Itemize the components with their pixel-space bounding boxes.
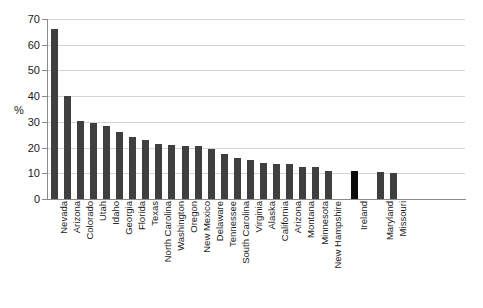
- bar: [390, 173, 397, 199]
- bar: [260, 163, 267, 199]
- bar: [299, 167, 306, 199]
- bar: [195, 146, 202, 199]
- x-axis-tick-label: Colorado: [85, 201, 95, 240]
- y-axis-tick-label: 10: [12, 168, 40, 179]
- x-axis-tick-label: Oregon: [189, 201, 199, 233]
- y-axis-tick-label: 20: [12, 143, 40, 154]
- bar: [312, 167, 319, 199]
- bar: [182, 146, 189, 199]
- y-axis-tick-label: 40: [12, 91, 40, 102]
- x-axis-tick-label: Washington: [176, 201, 186, 251]
- bar: [51, 29, 58, 199]
- bar: [64, 96, 71, 199]
- bar: [142, 140, 149, 199]
- x-axis-tick-label: New Mexico: [202, 201, 212, 253]
- bar: [221, 154, 228, 199]
- bar: [155, 144, 162, 199]
- bar: [90, 123, 97, 199]
- x-axis-tick-label: Utah: [98, 201, 108, 221]
- x-axis-tick-labels: NevadaArizonaColoradoUtahIdahoGeorgiaFlo…: [47, 201, 465, 306]
- y-axis-tick-label: 60: [12, 40, 40, 51]
- bar: [234, 158, 241, 199]
- x-axis-tick-label: Tennessee: [228, 201, 238, 247]
- plot-area: [47, 19, 465, 199]
- bar: [77, 121, 84, 199]
- x-axis-tick-label: Ireland: [359, 201, 369, 230]
- y-axis-tick-label: 30: [12, 117, 40, 128]
- bar: [116, 132, 123, 199]
- x-axis-tick-label: Idaho: [111, 201, 121, 225]
- bar: [273, 164, 280, 199]
- bar: [208, 149, 215, 199]
- bar: [286, 164, 293, 199]
- bar: [103, 126, 110, 199]
- bar: [377, 172, 384, 199]
- bar: [129, 137, 136, 199]
- x-axis-tick-label: North Carolina: [163, 201, 173, 262]
- bar-chart: % 010203040506070 NevadaArizonaColoradoU…: [0, 0, 483, 308]
- x-axis-tick-label: South Carolina: [241, 201, 251, 264]
- x-axis-tick-label: Texas: [150, 201, 160, 226]
- x-axis-tick-label: Montana: [306, 201, 316, 238]
- x-axis-tick-label: Alaska: [267, 201, 277, 230]
- bar: [247, 160, 254, 199]
- x-axis-tick-label: Maryland: [385, 201, 395, 240]
- x-axis-tick-label: Arizona: [72, 201, 82, 233]
- y-axis-tick-label: 50: [12, 65, 40, 76]
- y-axis-tick-label: 0: [12, 194, 40, 205]
- x-axis-tick-label: Georgia: [124, 201, 134, 235]
- x-axis-tick-label: New Hampshire: [333, 201, 343, 269]
- bar: [325, 171, 332, 199]
- x-axis-tick-label: Missouri: [398, 201, 408, 236]
- x-axis-tick-label: Virginia: [254, 201, 264, 233]
- x-axis-tick-label: Delaware: [215, 201, 225, 241]
- x-axis-tick-label: Arizona: [293, 201, 303, 233]
- x-axis-tick-label: Minnesota: [320, 201, 330, 245]
- bar: [168, 145, 175, 199]
- x-axis-tick-label: Nevada: [59, 201, 69, 234]
- x-axis-tick-label: California: [280, 201, 290, 241]
- x-axis-tick-label: Florida: [137, 201, 147, 230]
- y-axis-tick-labels: 010203040506070: [8, 0, 40, 308]
- y-axis-tick-label: 70: [12, 14, 40, 25]
- bar: [351, 171, 358, 199]
